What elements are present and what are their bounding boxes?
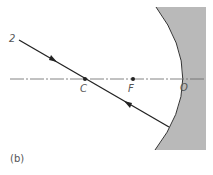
diagram-canvas: 2 C F O (b) (0, 0, 213, 175)
caption: (b) (10, 154, 24, 164)
arrow-incident-icon (49, 55, 57, 62)
point-f (131, 77, 135, 81)
label-c: C (80, 84, 87, 94)
arrow-reflected-icon (124, 101, 132, 108)
ray-label: 2 (9, 34, 15, 44)
mirror-body (155, 7, 206, 150)
label-f: F (128, 84, 134, 94)
label-o: O (180, 83, 188, 93)
point-c (83, 77, 87, 81)
light-ray (19, 40, 169, 127)
